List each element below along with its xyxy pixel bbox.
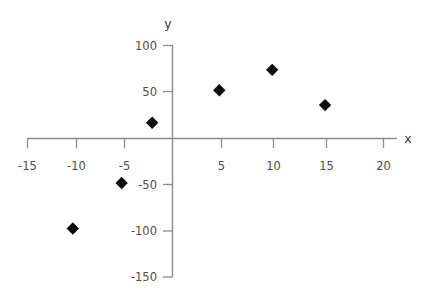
x-tick-label-15: 15 [319,159,334,173]
data-point-series [67,64,332,235]
scatter-plot-figure: -15 -10 -5 5 10 15 20 100 50 -50 -100 -1… [0,0,424,297]
y-tick-label-neg50: -50 [138,178,157,192]
data-point-marker [146,117,158,129]
y-tick-label-50: 50 [142,85,157,99]
x-tick-label-neg15: -15 [18,159,37,173]
y-axis-title: y [164,16,172,31]
y-axis-ticks [163,46,173,278]
x-axis-title: x [404,131,411,146]
x-axis-ticks [28,139,384,149]
data-point-marker [213,84,225,96]
x-tick-label-neg5: -5 [119,159,130,173]
plot-canvas: -15 -10 -5 5 10 15 20 100 50 -50 -100 -1… [0,0,424,297]
data-point-marker [266,64,278,76]
y-tick-label-100: 100 [135,39,157,53]
data-point-marker [67,222,79,234]
y-tick-label-neg100: -100 [131,224,157,238]
x-tick-label-20: 20 [376,159,391,173]
data-point-marker [115,177,127,189]
data-point-marker [319,99,331,111]
x-tick-label-5: 5 [218,159,225,173]
y-tick-label-neg150: -150 [131,270,157,284]
x-tick-label-10: 10 [266,159,281,173]
x-tick-label-neg10: -10 [67,159,86,173]
